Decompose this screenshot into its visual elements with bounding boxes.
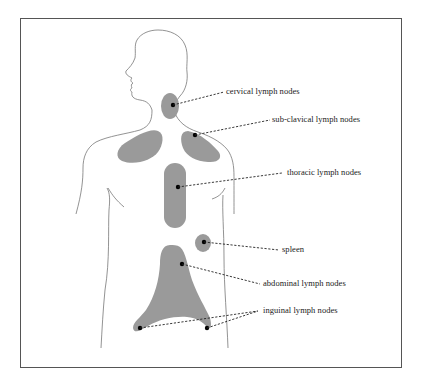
label-inguinal: inguinal lymph nodes <box>263 305 338 315</box>
cervical-node-shape <box>161 93 179 119</box>
leader-cervical <box>173 92 224 105</box>
leader-abdominal <box>182 264 260 284</box>
leader-subclavical <box>195 120 270 135</box>
label-cervical: cervical lymph nodes <box>226 86 300 96</box>
subclavical-left-shape <box>117 130 162 162</box>
label-subclavical: sub-clavical lymph nodes <box>272 114 360 124</box>
lymph-organs <box>117 93 220 331</box>
subclavical-right-shape <box>181 131 220 162</box>
label-abdominal: abdominal lymph nodes <box>263 278 346 288</box>
thoracic-node-shape <box>164 163 186 228</box>
leader-inguinal-right <box>207 311 258 328</box>
abdominal-inguinal-shape <box>133 245 211 331</box>
lymph-diagram <box>0 0 422 386</box>
label-spleen: spleen <box>282 244 304 254</box>
label-thoracic: thoracic lymph nodes <box>287 167 361 177</box>
leader-spleen <box>204 242 279 250</box>
leader-thoracic <box>178 173 282 187</box>
